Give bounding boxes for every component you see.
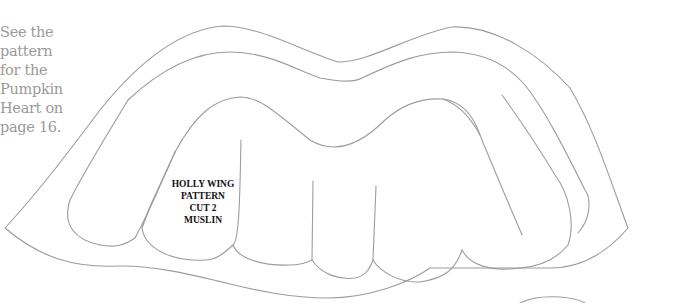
feather-middle-left-line (312, 181, 313, 260)
pattern-label-line: MUSLIN (158, 214, 248, 226)
pattern-label: HOLLY WING PATTERN CUT 2 MUSLIN (158, 178, 248, 226)
feather-lower-left (142, 195, 156, 228)
outer-outline (5, 26, 628, 298)
pattern-label-line: HOLLY WING (158, 178, 248, 190)
pattern-label-line: CUT 2 (158, 202, 248, 214)
partial-arc-bottom (520, 297, 585, 303)
holly-wing-pattern-drawing (0, 0, 693, 303)
pattern-label-line: PATTERN (158, 190, 248, 202)
crown-bottom-scallops (233, 245, 462, 282)
feather-right (462, 95, 571, 269)
feather-right-inner (443, 99, 480, 135)
feather-middle-right-line (373, 186, 376, 260)
inner-outline-left (68, 100, 128, 245)
